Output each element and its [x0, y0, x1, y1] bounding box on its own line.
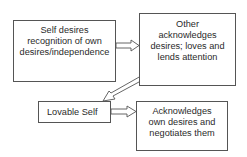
node-other-acknowledges: Other acknowledges desires; loves and le… — [139, 13, 236, 86]
node-label: Lovable Self — [47, 107, 98, 118]
node-label: Acknowledges own desires and negotiates … — [149, 106, 216, 139]
node-self-desires: Self desires recognition of own desires/… — [13, 20, 116, 82]
node-lovable-self: Lovable Self — [38, 101, 111, 123]
node-label: Self desires recognition of own desires/… — [20, 25, 110, 58]
arrow-lovable-to-acknowledges — [111, 106, 136, 117]
arrow-self-to-other — [116, 40, 139, 51]
node-label: Other acknowledges desires; loves and le… — [150, 19, 224, 63]
node-acknowledges-own: Acknowledges own desires and negotiates … — [136, 101, 228, 151]
